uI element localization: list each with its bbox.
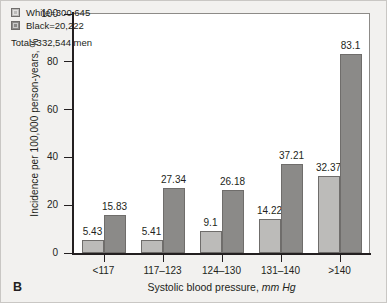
y-tick-label: 60 [47, 105, 58, 115]
bars-layer: 5.4315.835.4127.349.126.1814.2237.2132.3… [74, 14, 369, 253]
bar-value-label: 83.1 [333, 41, 369, 51]
legend-label-black: Black=20,222 [26, 20, 84, 31]
bar [340, 54, 362, 253]
bar [141, 240, 163, 253]
bar [318, 176, 340, 253]
bar-value-label: 26.18 [215, 177, 251, 187]
legend-swatch-white-icon [11, 8, 20, 17]
x-tick-label: >140 [300, 265, 380, 276]
bar [200, 231, 222, 253]
y-tick-label: 20 [47, 200, 58, 210]
legend-total-note: Total=332,544 men [11, 37, 92, 48]
bar-value-label: 37.21 [274, 151, 310, 161]
x-tick [104, 255, 105, 262]
y-tick-label: 40 [47, 152, 58, 162]
x-tick [281, 255, 282, 262]
y-tick-label: 0 [52, 248, 58, 258]
y-tick [64, 205, 72, 206]
legend-item-black: Black=20,222 [11, 20, 92, 31]
legend: White=300,645 Black=20,222 Total=332,544… [11, 7, 92, 48]
x-tick [340, 255, 341, 262]
y-tick [64, 157, 72, 158]
x-axis-title: Systolic blood pressure, mm Hg [73, 281, 370, 293]
x-axis-title-unit: mm Hg [262, 281, 296, 293]
y-tick-label: 80 [47, 57, 58, 67]
legend-item-white: White=300,645 [11, 7, 92, 18]
x-axis-title-main: Systolic blood pressure, [147, 281, 258, 293]
bar [163, 188, 185, 253]
bar-value-label: 15.83 [97, 202, 133, 212]
legend-swatch-black-icon [11, 21, 20, 30]
bar [281, 164, 303, 253]
x-tick [163, 255, 164, 262]
y-tick [64, 253, 72, 254]
figure-panel-b: Incidence per 100,000 person-years, % 02… [0, 0, 387, 303]
bar [82, 240, 104, 253]
panel-label: B [13, 280, 22, 294]
bar [222, 190, 244, 253]
bar-value-label: 27.34 [156, 175, 192, 185]
bar [104, 215, 126, 253]
y-tick [64, 61, 72, 62]
x-tick [222, 255, 223, 262]
y-tick [64, 109, 72, 110]
bar [259, 219, 281, 253]
legend-label-white: White=300,645 [26, 7, 90, 18]
